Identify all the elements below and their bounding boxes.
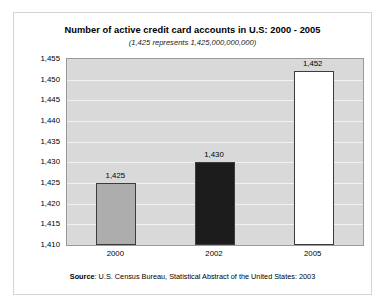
y-axis-tick-label: 1,440 [40,116,60,125]
y-axis-tick-label: 1,445 [40,95,60,104]
y-axis-tick-label: 1,455 [40,54,60,63]
y-axis-tick-label: 1,430 [40,157,60,166]
bar-value-label: 1,452 [303,59,323,68]
chart-frame: Number of active credit card accounts in… [13,12,372,295]
y-axis-tick-label: 1,420 [40,198,60,207]
y-axis-tick-label: 1,435 [40,136,60,145]
y-axis: 1,4551,4501,4451,4401,4351,4301,4251,420… [14,58,64,246]
y-axis-tick-label: 1,425 [40,178,60,187]
chart-title: Number of active credit card accounts in… [14,25,371,35]
bar-value-label: 1,430 [204,150,224,159]
source-text: : U.S. Census Bureau, Statistical Abstra… [95,272,316,281]
source-note: Source: U.S. Census Bureau, Statistical … [14,272,371,281]
bar [294,71,334,245]
bar [96,183,136,245]
bar [195,162,235,245]
x-axis-tick-label: 2005 [304,249,321,258]
chart-subtitle: (1,425 represents 1,425,000,000,000) [14,38,371,47]
x-axis-tick-label: 2002 [205,249,222,258]
x-axis: 200020022005 [66,249,364,263]
bar-value-label: 1,425 [106,171,126,180]
y-axis-tick-label: 1,450 [40,74,60,83]
y-axis-tick-label: 1,415 [40,219,60,228]
x-axis-tick-label: 2000 [107,249,124,258]
y-axis-tick-label: 1,410 [40,240,60,249]
source-label: Source [70,272,95,281]
